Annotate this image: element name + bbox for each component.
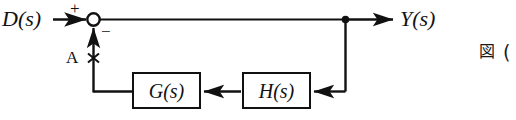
block-diagram-figure: D(s) + − A Y(s) G(s) H(s) 図 ( [0, 0, 516, 120]
summing-junction [87, 13, 99, 25]
diagram-wires [0, 0, 516, 120]
